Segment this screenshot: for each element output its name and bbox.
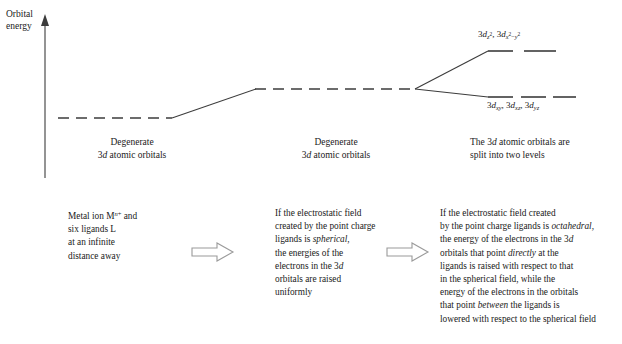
- caption-line: energy of the electrons in the orbitals: [440, 286, 622, 299]
- stage-caption-line-1: Degenerate: [58, 136, 206, 149]
- caption-line: that point between the ligands is: [440, 299, 622, 312]
- caption-line: orbitals that point directly at the: [440, 247, 622, 260]
- caption-line: the energies of the: [275, 247, 425, 260]
- connector-free-to-spherical: [172, 89, 256, 118]
- caption-spherical: If the electrostatic field created by th…: [275, 207, 425, 299]
- stage-caption-line-1: The 3d atomic orbitals are: [470, 136, 620, 149]
- eg-orbital-label: 3dz2, 3dx2−y2: [478, 29, 520, 40]
- caption-line: electrons in the 3d: [275, 260, 425, 273]
- caption-line: uniformly: [275, 286, 425, 299]
- caption-line: in the spherical field, while the: [440, 273, 622, 286]
- stage-caption-spherical: Degenerate 3d atomic orbitals: [262, 136, 410, 162]
- caption-line: ligands is raised with respect to that: [440, 260, 622, 273]
- stage-caption-line-1: Degenerate: [262, 136, 410, 149]
- stage-caption-line-2: 3d atomic orbitals: [262, 149, 410, 162]
- stage-caption-line-2: 3d atomic orbitals: [58, 149, 206, 162]
- caption-free-ion: Metal ion Mn+ and six ligands L at an in…: [68, 207, 188, 263]
- t2g-orbital-label: 3dxy, 3dxz, 3dyz: [487, 100, 539, 111]
- energy-axis-arrow: [41, 14, 49, 178]
- caption-line: distance away: [68, 250, 188, 263]
- stage-caption-line-2: split into two levels: [470, 149, 620, 162]
- connector-split-lower: [415, 89, 488, 97]
- caption-line: If the electrostatic field created: [440, 207, 622, 220]
- caption-line: at an infinite: [68, 236, 188, 249]
- connector-split-upper: [415, 51, 488, 89]
- caption-line: lowered with respect to the spherical fi…: [440, 313, 622, 326]
- caption-line: the energy of the electrons in the 3d: [440, 233, 622, 246]
- caption-line: Metal ion Mn+ and: [68, 207, 188, 223]
- caption-octahedral: If the electrostatic field created by th…: [440, 207, 622, 326]
- caption-line: six ligands L: [68, 223, 188, 236]
- caption-line: orbitals are raised: [275, 273, 425, 286]
- caption-line: by the point charge ligands is octahedra…: [440, 220, 622, 233]
- crystal-field-splitting-figure: Orbitalenergy: [0, 0, 622, 344]
- process-arrow-1: [192, 243, 233, 261]
- caption-line: created by the point charge: [275, 220, 425, 233]
- caption-line: If the electrostatic field: [275, 207, 425, 220]
- caption-line: ligands is spherical,: [275, 233, 425, 246]
- stage-caption-octahedral: The 3d atomic orbitals are split into tw…: [470, 136, 620, 162]
- stage-caption-free-ion: Degenerate 3d atomic orbitals: [58, 136, 206, 162]
